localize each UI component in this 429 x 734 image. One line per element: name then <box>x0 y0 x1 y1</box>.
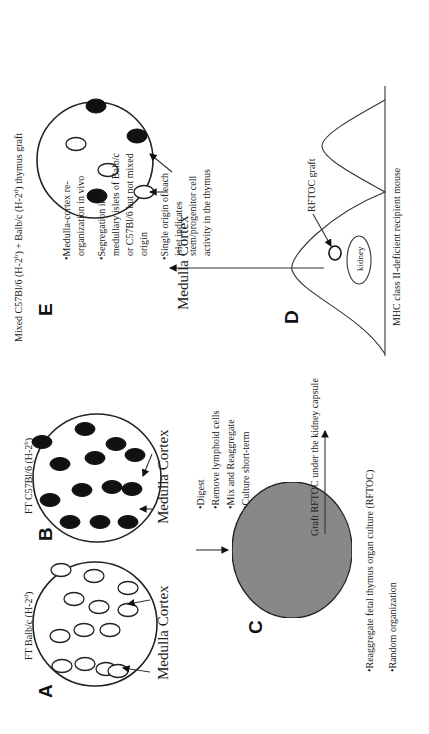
panel-b: B FT C57Bl/6 (H-2b) <box>22 414 171 542</box>
panel-c: •Digest •Remove lymphoid cells •Mix and … <box>195 410 398 672</box>
panel-a-labels: Medulla Cortex <box>155 585 171 680</box>
rftoc-aggregate <box>232 482 352 618</box>
panel-c-letter: C <box>245 620 266 634</box>
bullet-segregation-line3: or C57Bl/6 but not mixed <box>124 153 135 256</box>
bullet-single-origin-line1: •Single origin of each <box>159 173 170 260</box>
bullet-single-origin-line4: activity in the thymus <box>201 169 212 256</box>
panel-b-letter: B <box>35 527 56 541</box>
panel-d-letter: D <box>281 310 302 324</box>
bullet-segregation-line2: medullary islets of Balb/c <box>110 152 121 256</box>
rftoc-note: •Reaggregate fetal thymus organ culture … <box>364 470 376 672</box>
bullet-segregation-line1: •Segregation into <box>96 191 107 260</box>
panel-a: A FT Balb/c (H-2d) <box>22 562 171 698</box>
bullet-reorganization-line2: organization in vivo <box>75 176 86 256</box>
bullet-reorganization-line1: •Medulla-cortex re- <box>61 181 72 260</box>
step-mix-reaggregate: •Mix and Reaggregate <box>225 419 236 509</box>
panel-b-labels: Medulla Cortex <box>155 429 171 524</box>
panel-e: E Mixed C57Bl/6 (H-2b) + Balb/c (H-2d) t… <box>12 99 212 342</box>
panel-a-letter: A <box>35 684 56 698</box>
step-remove-lymphoid: •Remove lymphoid cells <box>210 410 221 509</box>
panel-e-title: Mixed C57Bl/6 (H-2b) + Balb/c (H-2d) thy… <box>12 133 25 342</box>
rftoc-graft <box>329 246 341 260</box>
mouse-outline <box>292 100 385 354</box>
panel-d: Graft RFTOC under the kidney capsule D k… <box>170 86 402 536</box>
panel-e-letter: E <box>35 303 56 316</box>
mouse-label: MHC class II-deficient recipient mouse <box>391 167 402 326</box>
bullet-single-origin-line3: stem/progenitor cell <box>187 176 198 256</box>
kidney-label: kidney <box>355 246 365 271</box>
random-organization-note: •Random organization <box>387 582 398 672</box>
processing-steps: •Digest •Remove lymphoid cells •Mix and … <box>195 410 251 509</box>
step-culture: •Culture short-term <box>240 431 251 509</box>
step-digest: •Digest <box>195 479 206 509</box>
rotated-figure: A FT Balb/c (H-2d) <box>12 86 402 698</box>
thymus-reaggregation-diagram: A FT Balb/c (H-2d) <box>0 0 429 734</box>
graft-label: Graft RFTOC under the kidney capsule <box>309 378 320 536</box>
rftoc-graft-pointer <box>313 214 331 246</box>
bullet-segregation-line4: origin <box>138 232 149 256</box>
rftoc-graft-label: RFTOC graft <box>306 158 317 212</box>
bullet-single-origin-line2: islet indicates <box>173 201 184 256</box>
